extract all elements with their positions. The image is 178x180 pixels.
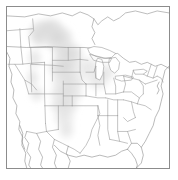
great-lakes — [88, 47, 147, 82]
map-canvas — [7, 7, 169, 168]
map-figure — [0, 0, 178, 180]
map-frame — [6, 6, 170, 169]
